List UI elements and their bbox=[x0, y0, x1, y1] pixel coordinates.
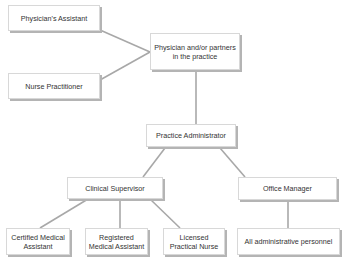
node-label: Nurse Practitioner bbox=[25, 82, 83, 91]
node-label: Clinical Supervisor bbox=[85, 184, 145, 193]
node-practice-administrator: Practice Administrator bbox=[146, 124, 236, 147]
node-physicians-assistant: Physician's Assistant bbox=[8, 5, 100, 31]
node-licensed-practical-nurse: Licensed Practical Nurse bbox=[163, 228, 225, 255]
node-label: Licensed Practical Nurse bbox=[166, 233, 222, 251]
node-nurse-practitioner: Nurse Practitioner bbox=[8, 73, 100, 99]
node-label: Office Manager bbox=[263, 184, 312, 193]
node-physician: Physician and/or partners in the practic… bbox=[150, 33, 240, 70]
node-label: Physician's Assistant bbox=[21, 14, 88, 23]
node-label: Certified Medical Assistant bbox=[9, 233, 67, 251]
node-label: All administrative personnel bbox=[245, 237, 333, 246]
node-label: Registered Medical Assistant bbox=[88, 233, 145, 251]
node-label: Practice Administrator bbox=[156, 131, 226, 140]
node-certified-medical-assistant: Certified Medical Assistant bbox=[6, 228, 70, 255]
node-label: Physician and/or partners in the practic… bbox=[153, 43, 237, 61]
node-all-administrative-personnel: All administrative personnel bbox=[237, 228, 340, 255]
node-office-manager: Office Manager bbox=[238, 177, 337, 200]
node-registered-medical-assistant: Registered Medical Assistant bbox=[85, 228, 148, 255]
node-clinical-supervisor: Clinical Supervisor bbox=[67, 177, 163, 199]
